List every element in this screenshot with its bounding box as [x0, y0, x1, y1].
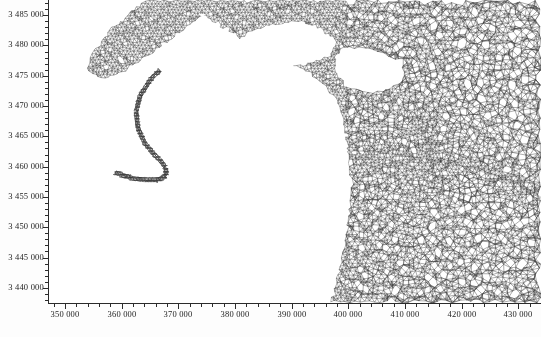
x-tick-minor: [246, 304, 247, 307]
y-tick-minor: [45, 155, 48, 156]
y-tick-minor: [45, 264, 48, 265]
y-tick-minor: [45, 179, 48, 180]
y-tick-minor: [45, 142, 48, 143]
x-tick-label: 410 000: [390, 310, 419, 319]
x-tick-minor: [337, 304, 338, 307]
y-tick-label: 3 460 000: [8, 162, 44, 171]
x-tick-minor: [76, 304, 77, 307]
x-tick-minor: [156, 304, 157, 307]
y-tick-minor: [45, 21, 48, 22]
y-tick-minor: [45, 161, 48, 162]
y-tick-minor: [45, 233, 48, 234]
x-tick-minor: [212, 304, 213, 307]
mesh-map-figure: 3 440 0003 445 0003 450 0003 455 0003 46…: [0, 0, 541, 337]
y-tick-minor: [45, 270, 48, 271]
y-tick-label: 3 485 000: [8, 10, 44, 19]
y-tick-minor: [45, 124, 48, 125]
y-tick-minor: [45, 221, 48, 222]
y-tick-label: 3 445 000: [8, 253, 44, 262]
x-tick-minor: [54, 304, 55, 307]
y-tick-minor: [45, 82, 48, 83]
x-tick-minor: [360, 304, 361, 307]
y-tick-minor: [45, 294, 48, 295]
y-tick-label: 3 450 000: [8, 222, 44, 231]
y-tick-minor: [45, 173, 48, 174]
x-tick-minor: [190, 304, 191, 307]
x-tick-label: 420 000: [447, 310, 476, 319]
x-tick-label: 380 000: [220, 310, 249, 319]
y-tick-minor: [45, 251, 48, 252]
y-tick-minor: [45, 112, 48, 113]
y-tick-minor: [45, 191, 48, 192]
x-tick-minor: [303, 304, 304, 307]
x-tick-minor: [224, 304, 225, 307]
x-tick-minor: [450, 304, 451, 307]
x-tick-label: 430 000: [503, 310, 532, 319]
x-tick-minor: [484, 304, 485, 307]
y-tick-minor: [45, 203, 48, 204]
x-tick-minor: [167, 304, 168, 307]
x-tick-minor: [88, 304, 89, 307]
y-tick-minor: [45, 118, 48, 119]
finite-element-mesh: [48, 0, 541, 303]
x-tick-minor: [371, 304, 372, 307]
y-tick-minor: [45, 88, 48, 89]
y-tick-label: 3 480 000: [8, 40, 44, 49]
x-tick-minor: [144, 304, 145, 307]
y-tick-label: 3 455 000: [8, 192, 44, 201]
y-tick-minor: [45, 130, 48, 131]
x-tick-minor: [280, 304, 281, 307]
y-tick-minor: [45, 27, 48, 28]
x-tick-minor: [439, 304, 440, 307]
y-tick-minor: [45, 70, 48, 71]
x-tick-minor: [416, 304, 417, 307]
y-tick-minor: [45, 9, 48, 10]
x-tick-minor: [428, 304, 429, 307]
x-tick-label: 400 000: [333, 310, 362, 319]
x-tick-label: 390 000: [277, 310, 306, 319]
x-tick-minor: [269, 304, 270, 307]
y-tick-minor: [45, 239, 48, 240]
x-tick-minor: [110, 304, 111, 307]
x-tick-minor: [394, 304, 395, 307]
x-tick-minor: [382, 304, 383, 307]
y-tick-minor: [45, 3, 48, 4]
y-tick-label: 3 470 000: [8, 101, 44, 110]
y-tick-label: 3 465 000: [8, 131, 44, 140]
x-tick-label: 350 000: [50, 310, 79, 319]
x-tick-label: 360 000: [107, 310, 136, 319]
y-tick-minor: [45, 148, 48, 149]
y-tick-minor: [45, 33, 48, 34]
y-tick-label: 3 440 000: [8, 283, 44, 292]
y-tick-minor: [45, 52, 48, 53]
y-tick-minor: [45, 209, 48, 210]
y-tick-minor: [45, 282, 48, 283]
x-tick-label: 370 000: [163, 310, 192, 319]
y-tick-minor: [45, 39, 48, 40]
y-tick-minor: [45, 245, 48, 246]
y-tick-minor: [45, 64, 48, 65]
y-tick-minor: [45, 276, 48, 277]
x-tick-minor: [530, 304, 531, 307]
y-tick-minor: [45, 300, 48, 301]
y-tick-minor: [45, 185, 48, 186]
x-tick-minor: [507, 304, 508, 307]
x-tick-minor: [473, 304, 474, 307]
x-tick-minor: [99, 304, 100, 307]
y-tick-label: 3 475 000: [8, 71, 44, 80]
y-tick-minor: [45, 94, 48, 95]
plot-area: [48, 0, 541, 303]
x-tick-minor: [314, 304, 315, 307]
y-tick-minor: [45, 215, 48, 216]
x-tick-minor: [201, 304, 202, 307]
y-tick-minor: [45, 58, 48, 59]
y-axis-spine: [48, 0, 49, 304]
x-tick-minor: [258, 304, 259, 307]
x-tick-minor: [326, 304, 327, 307]
y-tick-minor: [45, 100, 48, 101]
x-tick-minor: [496, 304, 497, 307]
x-tick-minor: [133, 304, 134, 307]
